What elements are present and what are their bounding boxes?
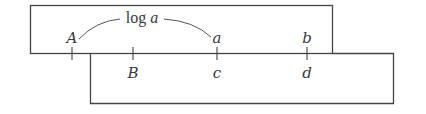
arc-label: log a [126,9,158,27]
label-b: b [302,29,312,47]
slide-rule-diagram: log a A a b B c d [0,0,426,114]
arc-label-variable: a [150,9,158,26]
label-B: B [126,64,138,82]
arc-label-prefix: log [126,9,150,27]
label-c: c [213,64,222,82]
label-d: d [302,64,312,82]
arc-right [164,19,211,37]
arc-left [79,19,120,39]
label-A: A [65,29,78,47]
label-a: a [213,29,222,47]
